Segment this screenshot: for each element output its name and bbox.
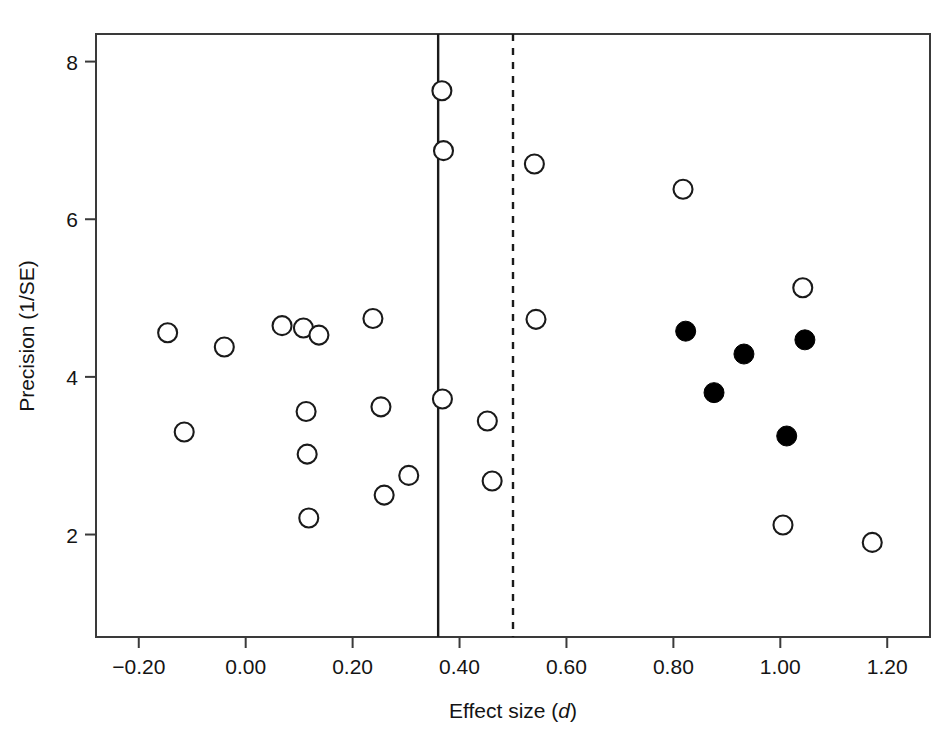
x-axis-title-main: Effect size ( (449, 699, 558, 722)
imputed-study-point (777, 426, 797, 446)
x-tick-label: 0.60 (546, 655, 587, 678)
observed-study-point (371, 397, 390, 416)
observed-study-point (773, 516, 792, 535)
observed-study-point (175, 423, 194, 442)
observed-study-point (433, 389, 452, 408)
observed-study-point (297, 402, 316, 421)
observed-study-point (309, 326, 328, 345)
observed-study-point (215, 337, 234, 356)
observed-study-point (434, 141, 453, 160)
x-tick-label: 0.00 (225, 655, 266, 678)
y-tick-label: 4 (66, 366, 78, 389)
imputed-study-point (734, 344, 754, 364)
x-tick-label: 0.20 (332, 655, 373, 678)
imputed-study-point (795, 330, 815, 350)
observed-study-point (432, 81, 451, 100)
x-axis-title: Effect size (d) (449, 699, 577, 722)
y-axis-title: Precision (1/SE) (15, 260, 38, 412)
observed-study-point (793, 278, 812, 297)
observed-study-point (299, 508, 318, 527)
y-tick-label: 6 (66, 208, 78, 231)
observed-study-point (363, 309, 382, 328)
observed-study-point (298, 445, 317, 464)
svg-text:Effect size (d): Effect size (d) (449, 699, 577, 722)
observed-study-point (399, 466, 418, 485)
imputed-study-point (704, 383, 724, 403)
y-axis-ticks: 2468 (66, 51, 96, 547)
x-axis-ticks: −0.200.000.200.400.600.801.001.20 (112, 637, 907, 678)
imputed-study-point (676, 321, 696, 341)
x-tick-label: −0.20 (112, 655, 165, 678)
observed-study-point (273, 316, 292, 335)
observed-study-point (158, 323, 177, 342)
y-tick-label: 8 (66, 51, 78, 74)
observed-study-point (483, 471, 502, 490)
y-tick-label: 2 (66, 524, 78, 547)
scatter-plot-canvas: 2468 −0.200.000.200.400.600.801.001.20 P… (0, 0, 939, 753)
x-tick-label: 0.80 (653, 655, 694, 678)
observed-study-point (478, 412, 497, 431)
x-tick-label: 0.40 (439, 655, 480, 678)
x-tick-label: 1.20 (867, 655, 908, 678)
funnel-plot-figure: 2468 −0.200.000.200.400.600.801.001.20 P… (0, 0, 939, 753)
observed-study-point (674, 180, 693, 199)
observed-study-point (526, 310, 545, 329)
observed-study-point (375, 486, 394, 505)
observed-study-point (525, 155, 544, 174)
x-tick-label: 1.00 (760, 655, 801, 678)
x-axis-title-close: ) (570, 699, 577, 722)
observed-study-point (863, 533, 882, 552)
